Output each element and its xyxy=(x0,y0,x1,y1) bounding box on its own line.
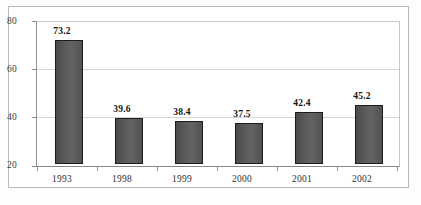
bar-1999 xyxy=(175,121,203,164)
bar-1993 xyxy=(55,40,83,164)
x-axis-category-label-1998: 1998 xyxy=(100,174,144,184)
x-axis-tick-mark-4 xyxy=(277,167,278,171)
x-axis-tick-mark-2 xyxy=(157,167,158,171)
gridline-40 xyxy=(37,117,399,118)
x-axis-category-label-2001: 2001 xyxy=(280,174,324,184)
bar-value-1993: 73.2 xyxy=(40,26,84,36)
bar-value-1998: 39.6 xyxy=(100,104,144,114)
y-axis-tick-label-60: 60 xyxy=(0,64,17,74)
bar-value-2001: 42.4 xyxy=(280,98,324,108)
bar-value-2000: 37.5 xyxy=(220,109,264,119)
x-axis-tick-mark-0 xyxy=(37,167,38,171)
x-axis-tick-mark-1 xyxy=(97,167,98,171)
bar-2002 xyxy=(355,105,383,164)
x-axis-category-label-1999: 1999 xyxy=(160,174,204,184)
y-axis-tick-label-20: 20 xyxy=(0,160,17,170)
x-axis-tick-mark-5 xyxy=(337,167,338,171)
x-axis-tick-mark-3 xyxy=(217,167,218,171)
bar-2001 xyxy=(295,112,323,164)
bar-value-1999: 38.4 xyxy=(160,107,204,117)
y-axis-tick-label-40: 40 xyxy=(0,112,17,122)
bar-value-2002: 45.2 xyxy=(340,91,384,101)
gridline-60 xyxy=(37,69,399,70)
x-axis-tick-mark-6 xyxy=(397,167,398,171)
y-axis-tick-label-80: 80 xyxy=(0,16,17,26)
bar-2000 xyxy=(235,123,263,164)
x-axis-category-label-2002: 2002 xyxy=(340,174,384,184)
bar-chart: 80 60 40 20 73.2 39.6 38.4 37.5 42.4 45.… xyxy=(0,0,421,205)
bar-1998 xyxy=(115,118,143,164)
x-axis-category-label-1993: 1993 xyxy=(40,174,84,184)
x-axis-category-label-2000: 2000 xyxy=(220,174,264,184)
